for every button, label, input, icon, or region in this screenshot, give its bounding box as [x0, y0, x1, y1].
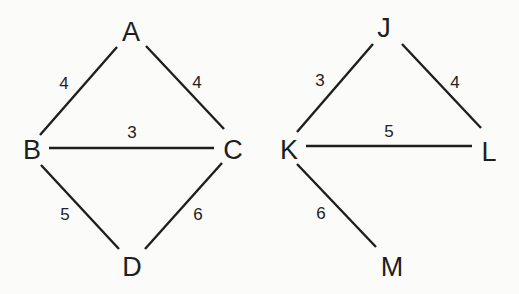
edge-weight-j-l: 4: [450, 74, 459, 91]
node-a: A: [122, 19, 140, 46]
edge-weight-a-c: 4: [192, 74, 201, 91]
edge-c-d: [145, 163, 222, 249]
edge-weight-k-l: 5: [384, 123, 393, 140]
node-d: D: [122, 254, 142, 281]
edge-a-c: [146, 46, 224, 129]
edge-weight-c-d: 6: [193, 206, 202, 223]
edge-k-m: [297, 164, 376, 247]
edge-j-l: [402, 44, 481, 128]
node-b: B: [23, 137, 41, 164]
node-j: J: [377, 15, 391, 42]
node-k: K: [280, 137, 298, 164]
node-c: C: [223, 137, 243, 164]
edge-weight-b-d: 5: [60, 206, 69, 223]
edge-a-b: [40, 47, 117, 135]
edge-weight-a-b: 4: [59, 75, 68, 92]
edge-weight-b-c: 3: [127, 124, 136, 141]
edges-layer: [0, 0, 519, 294]
node-m: M: [381, 254, 404, 281]
edge-weight-j-k: 3: [315, 72, 324, 89]
edge-weight-k-m: 6: [316, 205, 325, 222]
edge-b-d: [41, 165, 119, 249]
diagram-canvas: 44356ABCD3456JKLM: [0, 0, 519, 294]
edge-j-k: [297, 44, 373, 132]
node-l: L: [481, 139, 496, 166]
